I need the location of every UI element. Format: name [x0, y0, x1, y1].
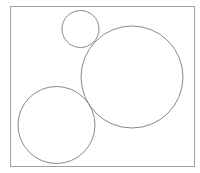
medium-circle	[18, 87, 95, 164]
circles-diagram	[0, 0, 200, 173]
circle-group	[18, 11, 183, 164]
small-circle	[62, 11, 99, 48]
frame-rectangle	[11, 7, 195, 167]
large-circle	[81, 26, 183, 128]
